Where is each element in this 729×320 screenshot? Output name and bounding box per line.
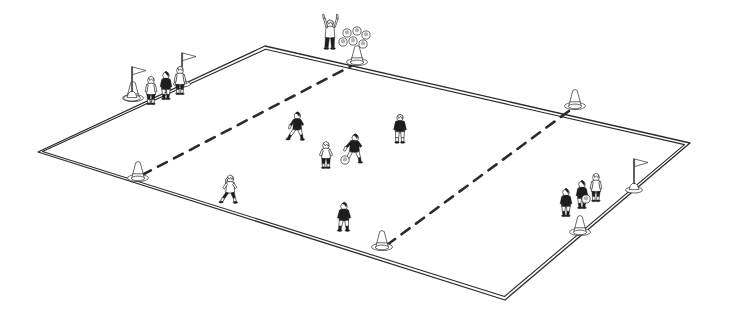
ball-dribbler (341, 156, 349, 164)
right-player-queue (560, 173, 602, 216)
player-right-queue-1 (560, 188, 572, 217)
player-defender-right-middle (394, 114, 407, 143)
player-runner-upper-middle (286, 112, 305, 141)
top-center-cone (347, 46, 368, 66)
active-players (219, 112, 407, 232)
drill-diagram-canvas: Soccer training grid drill diagram (0, 0, 729, 320)
player-right-queue-2 (576, 180, 588, 209)
ball-pile-5 (349, 37, 357, 45)
player-light-shirt-centre (319, 142, 332, 169)
right-edge-cone (565, 90, 586, 110)
right-queue-flag (626, 159, 649, 193)
ball-pile-6 (359, 40, 367, 48)
player-right-queue-3 (590, 173, 602, 201)
left-edge-cone (128, 162, 149, 182)
player-lower-centre (337, 202, 351, 231)
right-corner-queue-cone (570, 216, 591, 236)
ball-pile (339, 27, 370, 48)
right-dashed-divider (387, 108, 573, 245)
player-runner-lower-left (219, 175, 238, 203)
coach-with-ball-supply (323, 14, 371, 49)
coach-figure (323, 14, 339, 49)
bottom-center-cone (372, 231, 393, 251)
ball-pile-3 (362, 31, 370, 39)
ball-pile-4 (339, 38, 347, 46)
diagram-svg (0, 0, 729, 320)
ball-pile-2 (353, 27, 361, 35)
ball-pile-1 (343, 29, 351, 37)
ball-right-queue (582, 195, 590, 203)
